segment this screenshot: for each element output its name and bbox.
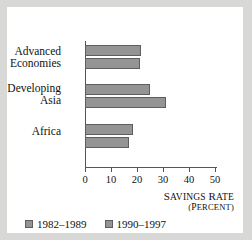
value-axis-line	[85, 167, 217, 168]
x-axis-tick-label: 20	[127, 174, 147, 185]
category-label-line: Advanced	[10, 45, 61, 57]
legend-item-1990-1997[interactable]: 1990–1997	[105, 218, 167, 230]
category-label-africa: Africa	[32, 125, 61, 137]
x-axis-tick-label: 30	[153, 174, 173, 185]
category-label-line: Developing	[7, 82, 61, 94]
legend-swatch-icon	[25, 220, 33, 228]
x-axis-tick	[111, 167, 112, 172]
x-axis-title: SAVINGS RATE	[7, 190, 234, 202]
legend-item-1982-1989[interactable]: 1982–1989	[25, 218, 87, 230]
x-axis-unit: (PERCENT)	[7, 202, 234, 212]
chart-panel: Advanced Economies Developing Asia Afric…	[7, 7, 243, 233]
category-label-line: Economies	[10, 57, 61, 69]
x-axis-tick-label: 40	[179, 174, 199, 185]
bar-advanced-economies-1982-1989[interactable]	[85, 45, 141, 56]
bar-developing-asia-1990-1997[interactable]	[85, 97, 166, 108]
plot-area: Advanced Economies Developing Asia Afric…	[7, 7, 243, 233]
bar-developing-asia-1982-1989[interactable]	[85, 84, 150, 95]
category-label-line: Asia	[7, 94, 61, 106]
x-axis-tick-label: 10	[101, 174, 121, 185]
category-label-developing-asia: Developing Asia	[7, 82, 61, 106]
category-label-advanced-economies: Advanced Economies	[10, 45, 61, 69]
legend-label: 1982–1989	[37, 218, 87, 230]
legend-label: 1990–1997	[117, 218, 167, 230]
x-axis-tick-label: 0	[75, 174, 95, 185]
legend: 1982–1989 1990–1997	[25, 218, 166, 230]
x-axis-tick	[85, 167, 86, 172]
legend-swatch-icon	[105, 220, 113, 228]
figure-frame: Advanced Economies Developing Asia Afric…	[0, 0, 252, 240]
x-axis-tick	[215, 167, 216, 172]
bar-africa-1990-1997[interactable]	[85, 137, 129, 148]
x-axis-tick	[137, 167, 138, 172]
x-axis-tick	[163, 167, 164, 172]
bar-africa-1982-1989[interactable]	[85, 124, 133, 135]
category-label-line: Africa	[32, 125, 61, 137]
x-axis-tick-label: 50	[205, 174, 225, 185]
x-axis-tick	[189, 167, 190, 172]
bar-advanced-economies-1990-1997[interactable]	[85, 58, 140, 69]
